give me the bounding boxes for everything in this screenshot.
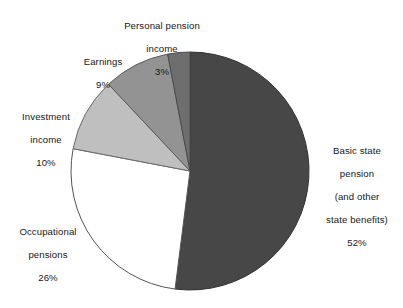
slice-label-percent: 26% [0,272,96,284]
slice-label-occupational-pensions: Occupational pensions 26% [0,214,96,295]
slice-label-line: Investment [2,111,90,123]
slice-label-percent: 10% [2,157,90,169]
slice-label-line: income [104,43,220,55]
slice-label-line: pensions [0,249,96,261]
slice-label-line: Personal pension [104,20,220,32]
pie-chart: Basic state pension (and other state ben… [0,0,403,308]
slice-label-line: Occupational [0,226,96,238]
slice-label-line: income [2,134,90,146]
slice-label-line: Basic state [312,145,402,157]
slice-label-line: state benefits) [312,214,402,226]
slice-label-basic-state-pension: Basic state pension (and other state ben… [312,133,402,261]
slice-label-investment-income: Investment income 10% [2,99,90,180]
slice-label-percent: 52% [312,237,402,249]
slice-label-line: pension [312,168,402,180]
slice-label-percent: 3% [104,66,220,78]
slice-label-personal-pension-income: Personal pension income 3% [104,8,220,89]
slice-label-line: (and other [312,191,402,203]
